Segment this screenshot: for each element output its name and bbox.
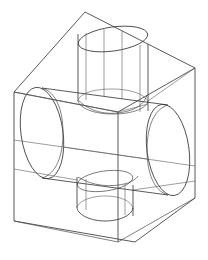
horizontal-cylinder-left-cap-rear xyxy=(42,88,63,178)
box-edge-bottom-right xyxy=(135,198,195,242)
construction-line-top-diagonal xyxy=(14,92,118,112)
enclosing-box xyxy=(14,12,195,242)
horizontal-cylinder-silhouette-bottom xyxy=(42,178,168,195)
horizontal-cylinder-left-cap xyxy=(15,85,69,182)
box-edge-bottom-hidden-right xyxy=(118,198,195,242)
box-edge-top-front-right xyxy=(118,68,195,112)
bottom-vertical-cylinder-bottom-cap-rear xyxy=(77,196,133,209)
box-edge-top-back-left xyxy=(14,12,85,92)
box-vertical-edges xyxy=(14,68,195,242)
box-edge-bottom-left xyxy=(14,221,135,242)
horizontal-cylinder-silhouette-top xyxy=(42,88,168,105)
bottom-vertical-cylinder-bottom-cap-front xyxy=(77,208,133,221)
main-horizontal-cylinder xyxy=(15,85,195,199)
box-edge-bottom-hidden-left xyxy=(14,221,118,242)
horizontal-cylinder-right-cap-rear xyxy=(147,105,168,195)
construction-line-mid-right xyxy=(63,147,195,166)
box-bottom-face xyxy=(14,198,195,242)
wireframe-viewport: 3D Wireframe Model xyxy=(0,0,208,260)
construction-line-front-tangent xyxy=(118,104,148,112)
horizontal-cylinder-right-cap xyxy=(141,102,195,199)
construction-line-right-tangent xyxy=(148,68,195,101)
bottom-vertical-cylinder xyxy=(76,167,134,221)
construction-lines xyxy=(14,68,195,221)
wireframe-drawing xyxy=(0,0,208,260)
top-vertical-cylinder-bottom-cap-rear xyxy=(78,89,148,102)
bottom-vertical-cylinder-top-cap xyxy=(76,167,134,195)
